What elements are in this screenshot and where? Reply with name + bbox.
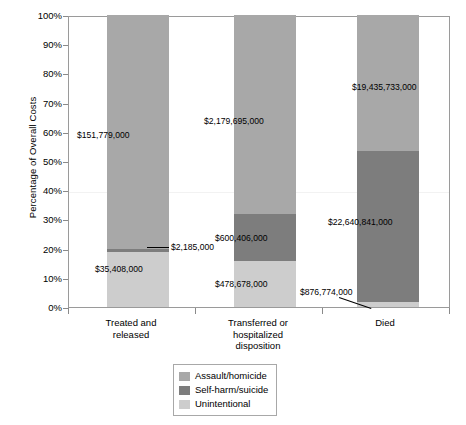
x-label-line-1: Transferred or: [198, 317, 318, 329]
x-axis-label-treated-and-released: Treated and released: [71, 317, 191, 340]
y-tick-label-30: 30%: [22, 216, 62, 226]
bar-died[interactable]: [357, 15, 419, 307]
y-tick-label-100: 100%: [22, 11, 62, 21]
y-tick-label-10: 10%: [22, 274, 62, 284]
legend-label-assault-homicide: Assault/homicide: [195, 371, 267, 381]
callout-bar3-unintentional: $876,774,000: [300, 288, 353, 297]
legend-item-assault-homicide[interactable]: Assault/homicide: [179, 369, 268, 383]
y-tick-label-20: 20%: [22, 245, 62, 255]
x-tick-mark-right-edge: [449, 308, 450, 314]
x-tick-mark-1: [195, 308, 196, 314]
x-label-line-2: released: [71, 329, 191, 341]
y-tick-label-70: 70%: [22, 99, 62, 109]
bar-transferred-or-hospitalized[interactable]: [234, 15, 296, 307]
x-tick-mark-left-edge: [68, 308, 69, 314]
value-label-bar3-assault: $19,435,733,000: [352, 83, 417, 92]
legend-item-self-harm-suicide[interactable]: Self-harm/suicide: [179, 383, 268, 397]
x-label-line-1: Died: [325, 317, 445, 329]
legend-item-unintentional[interactable]: Unintentional: [179, 397, 268, 411]
stacked-bar-chart: Percentage of Overall Costs 100% 90% 80%…: [0, 0, 466, 425]
legend-swatch-unintentional: [179, 400, 190, 409]
bar1-segment-self-harm[interactable]: [107, 249, 169, 252]
x-label-line-1: Treated and: [71, 317, 191, 329]
x-axis-label-died: Died: [325, 317, 445, 329]
y-tick-label-90: 90%: [22, 40, 62, 50]
value-label-bar2-unintentional: $478,678,000: [215, 280, 268, 289]
callout-bar1-self-harm: $2,185,000: [171, 243, 214, 252]
y-tick-label-0: 0%: [22, 303, 62, 313]
y-tick-label-50: 50%: [22, 157, 62, 167]
leader-line-bar1-self-harm: [147, 247, 169, 248]
x-axis-label-transferred-or-hospitalized: Transferred or hospitalized disposition: [198, 317, 318, 352]
legend-swatch-assault-homicide: [179, 372, 190, 381]
x-tick-mark-2: [322, 308, 323, 314]
value-label-bar2-assault: $2,179,695,000: [204, 117, 264, 126]
value-label-bar3-self-harm: $22,640,841,000: [328, 218, 393, 227]
value-label-bar2-self-harm: $600,406,000: [215, 234, 268, 243]
legend-label-unintentional: Unintentional: [195, 399, 250, 409]
y-tick-label-80: 80%: [22, 70, 62, 80]
value-label-bar1-assault: $151,779,000: [77, 131, 130, 140]
y-tick-label-40: 40%: [22, 186, 62, 196]
x-label-line-2: hospitalized: [198, 329, 318, 341]
value-label-bar1-unintentional: $35,408,000: [95, 265, 143, 274]
bar1-segment-unintentional[interactable]: [107, 252, 169, 308]
legend-swatch-self-harm-suicide: [179, 386, 190, 395]
bar2-segment-assault[interactable]: [234, 15, 296, 214]
x-label-line-3: disposition: [198, 340, 318, 352]
legend-label-self-harm-suicide: Self-harm/suicide: [195, 385, 268, 395]
legend: Assault/homicide Self-harm/suicide Unint…: [173, 364, 277, 416]
y-tick-label-60: 60%: [22, 128, 62, 138]
